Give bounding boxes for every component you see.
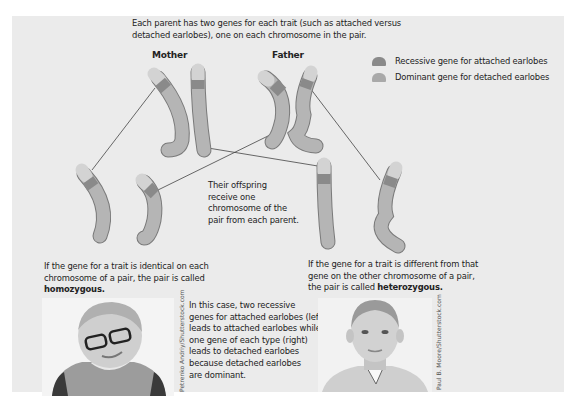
explanation-text: In this case, two recessive genes for at… [189,300,325,381]
offspring-note-line-4: pair from each parent. [208,215,299,227]
offspring-left-chromosome-2 [142,180,155,238]
heterozygous-term: heterozygous. [377,282,442,292]
heterozygous-caption: If the gene for a trait is different fro… [308,259,478,294]
offspring-note-line-3: chromosome of the [208,203,299,215]
offspring-note: Their offspring receive one chromosome o… [208,180,299,226]
homozygous-line-2: chromosome of a pair, the pair is called [44,273,209,285]
homozygous-line-1: If the gene for a trait is identical on … [44,261,209,273]
explanation-line-5: leads to detached earlobes [189,346,325,358]
explanation-line-3: leads to attached earlobes while [189,323,325,335]
left-photo-credit: Petrenko Andriy/Shutterstock.com [178,290,185,392]
explanation-line-4: one gene of each type (right) [189,335,325,347]
offspring-right-chromosome-1 [324,164,328,242]
explanation-line-7: are dominant. [189,370,325,382]
explanation-line-2: genes for attached earlobes (left) [189,312,325,324]
explanation-line-6: because detached earlobes [189,358,325,370]
child-portrait-image [318,298,432,392]
heterozygous-line-3: the pair is called heterozygous. [308,282,478,294]
heterozygous-line-3-prefix: the pair is called [308,282,377,292]
father-chromosome-1 [264,77,283,142]
child-with-glasses-image [42,298,174,396]
offspring-right-chromosome-2 [381,168,398,246]
right-photo-credit: Paul B. Moore/Shutterstock.com [435,294,442,390]
heterozygous-line-1: If the gene for a trait is different fro… [308,259,478,271]
offspring-left-chromosome-1 [82,170,104,236]
heterozygous-child-photo [318,298,432,392]
mother-chromosome-2 [198,70,204,150]
explanation-line-1: In this case, two recessive [189,300,325,312]
homozygous-child-photo [42,298,174,396]
offspring-note-line-2: receive one [208,192,299,204]
father-chromosome-2 [296,72,316,146]
offspring-note-line-1: Their offspring [208,180,299,192]
mother-chromosome-1 [154,74,182,150]
heterozygous-line-2: gene on the other chromosome of a pair, [308,271,478,283]
inheritance-lines [92,88,380,190]
